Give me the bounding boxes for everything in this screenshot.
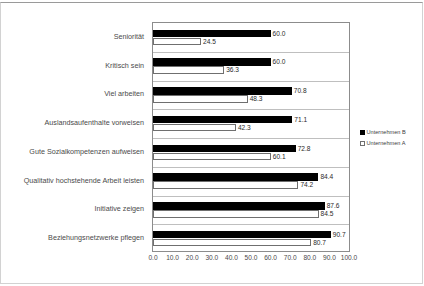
x-tick-label: 50.0 (245, 255, 258, 262)
bar-unternehmen-a (153, 210, 319, 218)
x-tick-label: 70.0 (284, 255, 297, 262)
bar-value-label: 72.8 (298, 146, 311, 153)
bar-value-label: 60.0 (273, 31, 286, 38)
chart-legend: Unternehmen BUnternehmen A (360, 128, 418, 150)
plot-area: 60.024.560.036.370.848.371.142.372.860.1… (152, 22, 350, 252)
plot-inner: 60.024.560.036.370.848.371.142.372.860.1… (153, 23, 349, 251)
x-tick-label: 40.0 (225, 255, 238, 262)
bar-value-label: 60.0 (273, 59, 286, 66)
category-label: Viel arbeiten (104, 90, 144, 97)
category-label: Gute Sozialkompetenzen aufweisen (29, 148, 144, 155)
x-tick-label: 20.0 (186, 255, 199, 262)
category-axis-labels: SenioritätKritisch seinViel arbeitenAusl… (0, 22, 148, 252)
bar-unternehmen-a (153, 66, 224, 74)
value-axis-ticks: 0.010.020.030.040.050.060.070.080.090.01… (152, 255, 350, 267)
category-separator (153, 138, 349, 139)
x-tick-label: 80.0 (303, 255, 316, 262)
bar-value-label: 60.1 (273, 154, 286, 161)
category-separator (153, 167, 349, 168)
bar-unternehmen-b (153, 231, 331, 239)
bar-value-label: 24.5 (203, 39, 216, 46)
category-label: Qualitativ hochstehende Arbeit leisten (24, 177, 144, 184)
x-tick-label: 10.0 (166, 255, 179, 262)
x-tick-label: 100.0 (341, 255, 358, 262)
bar-unternehmen-a (153, 239, 311, 247)
legend-label: Unternehmen A (367, 141, 406, 147)
category-separator (153, 81, 349, 82)
bar-unternehmen-a (153, 38, 201, 46)
bar-unternehmen-a (153, 124, 236, 132)
category-label: Auslandsaufenthalte vorweisen (45, 119, 145, 126)
category-label: Beziehungsnetzwerke pflegen (48, 234, 144, 241)
bar-unternehmen-b (153, 116, 292, 124)
hollow-square-icon (360, 141, 365, 146)
bar-unternehmen-b (153, 58, 271, 66)
bar-value-label: 70.8 (294, 88, 307, 95)
bar-unternehmen-a (153, 153, 271, 161)
bar-value-label: 48.3 (250, 96, 263, 103)
legend-label: Unternehmen B (367, 130, 406, 136)
bar-value-label: 84.4 (320, 174, 333, 181)
x-tick-label: 30.0 (205, 255, 218, 262)
bar-value-label: 90.7 (333, 232, 346, 239)
bar-value-label: 80.7 (313, 240, 326, 247)
bar-unternehmen-b (153, 202, 325, 210)
category-separator (153, 196, 349, 197)
bar-unternehmen-a (153, 95, 248, 103)
x-tick-label: 90.0 (323, 255, 336, 262)
chart-screenshot: SenioritätKritisch seinViel arbeitenAusl… (0, 0, 424, 286)
filled-square-icon (360, 130, 365, 135)
legend-item: Unternehmen A (360, 139, 418, 148)
x-tick-label: 0.0 (148, 255, 157, 262)
bar-unternehmen-b (153, 87, 292, 95)
bar-unternehmen-a (153, 181, 298, 189)
bar-value-label: 74.2 (300, 182, 313, 189)
category-separator (153, 224, 349, 225)
legend-item: Unternehmen B (360, 128, 418, 137)
bar-unternehmen-b (153, 145, 296, 153)
category-separator (153, 109, 349, 110)
bar-value-label: 71.1 (294, 117, 307, 124)
bar-unternehmen-b (153, 173, 318, 181)
bar-value-label: 42.3 (238, 125, 251, 132)
category-label: Initiative zeigen (94, 205, 144, 212)
category-label: Kritisch sein (105, 62, 144, 69)
category-separator (153, 52, 349, 53)
category-label: Seniorität (114, 33, 144, 40)
bar-value-label: 87.6 (327, 203, 340, 210)
x-tick-label: 60.0 (264, 255, 277, 262)
bar-unternehmen-b (153, 30, 271, 38)
bar-value-label: 36.3 (226, 67, 239, 74)
bar-value-label: 84.5 (321, 211, 334, 218)
